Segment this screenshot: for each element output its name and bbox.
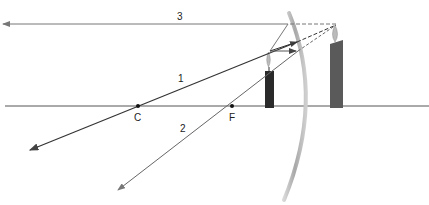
ray-2-label: 2 xyxy=(180,123,186,134)
focal-label: F xyxy=(229,112,235,123)
ray-diagram: 3 1 2 C F xyxy=(0,0,429,205)
focal-point xyxy=(230,104,234,108)
object-candle xyxy=(265,52,274,108)
ray-3-label: 3 xyxy=(177,11,183,22)
image-candle xyxy=(330,25,343,108)
ray-2-reflected xyxy=(118,51,298,190)
center-point xyxy=(136,104,140,108)
center-label: C xyxy=(134,112,141,123)
ray-1-extension xyxy=(297,25,336,42)
ray-1-reflected xyxy=(30,42,297,150)
ray-1-label: 1 xyxy=(178,73,184,84)
